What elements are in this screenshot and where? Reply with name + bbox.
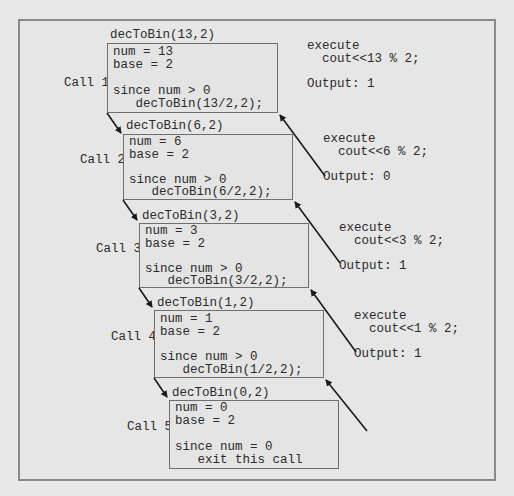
return-4-statement: cout<<1 % 2; — [354, 323, 459, 336]
call-4-label: Call 4 — [111, 331, 156, 344]
call-1-label: Call 1 — [64, 77, 109, 90]
call-1-line-base: base = 2 — [113, 59, 173, 72]
return-2-statement: cout<<6 % 2; — [323, 146, 428, 159]
call-2-line-action: decToBin(6/2,2); — [129, 186, 272, 199]
call-4-line-base: base = 2 — [160, 326, 220, 339]
call-3-frame-box: num = 3 base = 2 since num > 0 decToBin(… — [139, 223, 309, 288]
call-2-line-base: base = 2 — [129, 149, 189, 162]
call-3-header: decToBin(3,2) — [142, 210, 240, 223]
call-3-label: Call 3 — [96, 243, 141, 256]
call-1-header: decToBin(13,2) — [110, 29, 215, 42]
return-4-output: Output: 1 — [354, 348, 422, 361]
call-3-line-base: base = 2 — [145, 238, 205, 251]
call-5-frame-box: num = 0 base = 2 since num = 0 exit this… — [169, 400, 339, 469]
call-3-line-action: decToBin(3/2,2); — [145, 275, 288, 288]
call-4-frame-box: num = 1 base = 2 since num > 0 decToBin(… — [154, 310, 324, 378]
call-1-line-action: decToBin(13/2,2); — [113, 98, 263, 111]
call-5-header: decToBin(0,2) — [172, 387, 270, 400]
return-1-output: Output: 1 — [307, 78, 375, 91]
return-3-statement: cout<<3 % 2; — [339, 235, 444, 248]
call-2-header: decToBin(6,2) — [126, 120, 224, 133]
call-5-label: Call 5 — [127, 421, 172, 434]
return-3-output: Output: 1 — [339, 260, 407, 273]
call-4-line-action: decToBin(1/2,2); — [160, 364, 303, 377]
return-1-statement: cout<<13 % 2; — [307, 53, 420, 66]
return-2-output: Output: 0 — [323, 171, 391, 184]
call-4-header: decToBin(1,2) — [157, 297, 255, 310]
call-2-label: Call 2 — [80, 154, 125, 167]
call-5-line-base: base = 2 — [175, 415, 235, 428]
call-1-frame-box: num = 13 base = 2 since num > 0 decToBin… — [107, 43, 278, 113]
call-2-frame-box: num = 6 base = 2 since num > 0 decToBin(… — [123, 134, 293, 200]
call-5-line-action: exit this call — [175, 454, 303, 467]
